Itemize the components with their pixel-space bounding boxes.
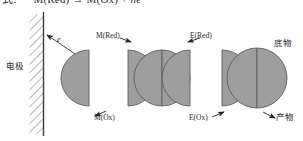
e-ox-arrow-line — [212, 112, 224, 117]
mediator-oxidized-label: M(Ox) — [94, 113, 115, 122]
m-red-arrow — [120, 38, 131, 42]
electrode-label: 电极 — [6, 62, 24, 71]
product-label: 产物 — [276, 113, 294, 122]
reaction-shape-pair — [227, 48, 287, 108]
m-red-arrow-line — [120, 38, 131, 42]
electron-label: e — [57, 35, 60, 44]
electrode-wall — [29, 12, 44, 136]
reaction-right-lobe — [257, 48, 287, 108]
e-ox-arrow — [212, 112, 224, 117]
product-arrow — [263, 112, 275, 118]
mediator-reduced-label: M(Red) — [96, 31, 120, 40]
product-arrow-line — [263, 112, 275, 118]
substrate-label: 底物 — [274, 39, 292, 48]
diagram-canvas: 式: M(Red) → M(Ox) + ne — [0, 0, 303, 141]
enzyme-reduced-label: E(Red) — [190, 31, 212, 40]
diagram-svg — [0, 0, 303, 141]
mediator-left-lobe-1 — [61, 50, 89, 106]
electrode-hatch-fill — [29, 14, 43, 134]
enzyme-oxidized-label: E(Ox) — [189, 113, 208, 122]
